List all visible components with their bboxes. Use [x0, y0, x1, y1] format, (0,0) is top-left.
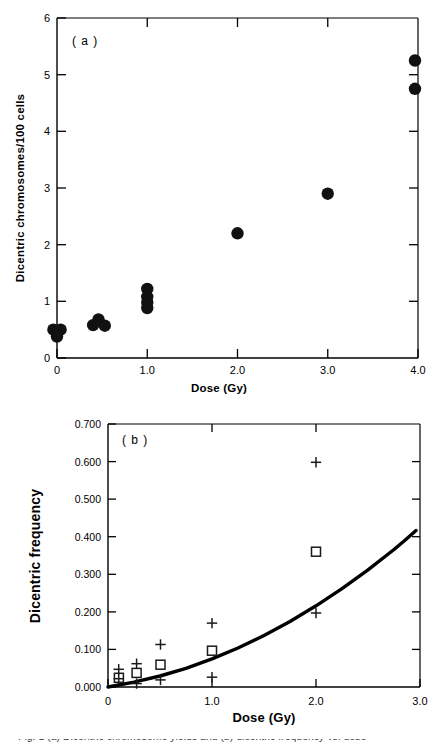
panel-b-ytick-7: 0.700	[75, 418, 101, 430]
panel-a-xtick-4: 4.0	[410, 364, 425, 376]
panel-b-y-axis-title: Dicentric frequency	[27, 489, 43, 624]
panel-a-y-ticks	[57, 18, 418, 358]
data-marker-plus	[207, 618, 217, 628]
panel-a-y-tick-labels: 0 1 2 3 4 5 6	[44, 12, 50, 364]
panel-a-ytick-5: 5	[44, 69, 50, 81]
panel-b-xtick-1: 1.0	[204, 695, 219, 707]
panel-b-axes	[108, 424, 420, 687]
data-point	[409, 83, 421, 95]
panel-b-x-axis-title-wrap: Dose (Gy)	[108, 708, 420, 726]
figure-caption: Fig. 1 (a) Dicentric chromosome yields a…	[18, 739, 366, 742]
data-point	[51, 330, 63, 342]
data-point	[322, 188, 334, 200]
panel-b-ytick-5: 0.500	[75, 493, 101, 505]
figure-caption-strip: Fig. 1 (a) Dicentric chromosome yields a…	[0, 739, 438, 749]
panel-a-ytick-1: 1	[44, 295, 50, 307]
panel-a-xtick-2: 2.0	[230, 364, 245, 376]
panel-b-ytick-1: 0.100	[75, 643, 101, 655]
data-point	[141, 302, 153, 314]
panel-a-ytick-6: 6	[44, 12, 50, 24]
panel-b-x-axis-title: Dose (Gy)	[232, 710, 295, 725]
panel-b-ytick-3: 0.300	[75, 568, 101, 580]
data-point	[409, 54, 421, 66]
figure-container: 0 1 2 3 4 5 6 0 1.0 2.0 3.0 4.0 ( a ) Di…	[0, 0, 438, 749]
data-marker-plus	[131, 659, 141, 669]
panel-b: 0.000 0.100 0.200 0.300 0.400 0.500 0.60…	[0, 390, 438, 749]
panel-b-ytick-0: 0.000	[75, 681, 101, 693]
data-marker-plus	[311, 457, 321, 467]
panel-a-x-tick-labels: 0 1.0 2.0 3.0 4.0	[54, 364, 426, 376]
panel-b-xtick-3: 3.0	[412, 695, 427, 707]
data-marker-plus	[207, 672, 217, 682]
panel-a: 0 1 2 3 4 5 6 0 1.0 2.0 3.0 4.0 ( a ) Di…	[0, 0, 438, 390]
panel-b-ytick-2: 0.200	[75, 606, 101, 618]
data-marker-square	[208, 646, 217, 655]
panel-b-x-tick-labels: 0 1.0 2.0 3.0	[105, 695, 428, 707]
panel-b-ytick-4: 0.400	[75, 531, 101, 543]
panel-b-ytick-6: 0.600	[75, 456, 101, 468]
panel-a-ytick-2: 2	[44, 239, 50, 251]
panel-a-xtick-0: 0	[54, 364, 60, 376]
panel-a-axes	[57, 18, 418, 358]
data-marker-square	[132, 668, 141, 677]
data-point	[87, 319, 99, 331]
panel-b-x-ticks	[108, 424, 420, 687]
panel-b-xtick-0: 0	[105, 695, 111, 707]
data-point	[99, 320, 111, 332]
data-marker-square	[312, 547, 321, 556]
panel-a-xtick-3: 3.0	[320, 364, 335, 376]
panel-a-ytick-3: 3	[44, 182, 50, 194]
data-marker-square	[156, 660, 165, 669]
panel-a-plot: 0 1 2 3 4 5 6 0 1.0 2.0 3.0 4.0 ( a ) Di…	[0, 0, 438, 390]
panel-b-square-markers	[114, 547, 320, 682]
panel-a-data-points	[47, 54, 421, 342]
panel-b-tag: ( b )	[122, 433, 148, 447]
fitted-curve	[108, 531, 416, 688]
panel-a-xtick-1: 1.0	[140, 364, 155, 376]
panel-b-y-tick-labels: 0.000 0.100 0.200 0.300 0.400 0.500 0.60…	[75, 418, 101, 693]
panel-b-plus-markers	[114, 457, 322, 689]
panel-b-plot: 0.000 0.100 0.200 0.300 0.400 0.500 0.60…	[0, 390, 438, 749]
panel-a-x-ticks	[57, 18, 418, 358]
data-marker-plus	[155, 639, 165, 649]
data-point	[231, 227, 243, 239]
panel-a-y-axis-title: Dicentric chromosomes/100 cells	[14, 94, 26, 282]
panel-a-ytick-0: 0	[44, 352, 50, 364]
panel-a-tag: ( a )	[72, 34, 98, 48]
panel-b-xtick-2: 2.0	[308, 695, 323, 707]
panel-a-ytick-4: 4	[44, 125, 50, 137]
panel-b-y-ticks	[108, 424, 420, 687]
